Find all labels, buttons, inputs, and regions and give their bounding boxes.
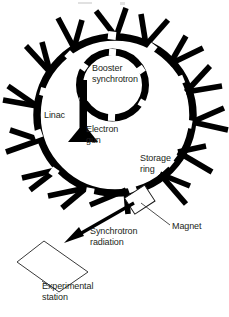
- electron-gun-triangle: [68, 128, 98, 142]
- synchrotron-facility-diagram: Booster synchrotron Linac Electron gun S…: [0, 0, 229, 317]
- booster-synchrotron-circle: [80, 52, 146, 118]
- diagram-canvas: [0, 0, 229, 317]
- station-leader-line: [42, 281, 50, 287]
- storage-ring-assembly: [3, 8, 228, 214]
- synchrotron-radiation-arrow: [64, 203, 134, 243]
- magnet-leader-line: [141, 203, 170, 225]
- experimental-station-box: [17, 241, 88, 292]
